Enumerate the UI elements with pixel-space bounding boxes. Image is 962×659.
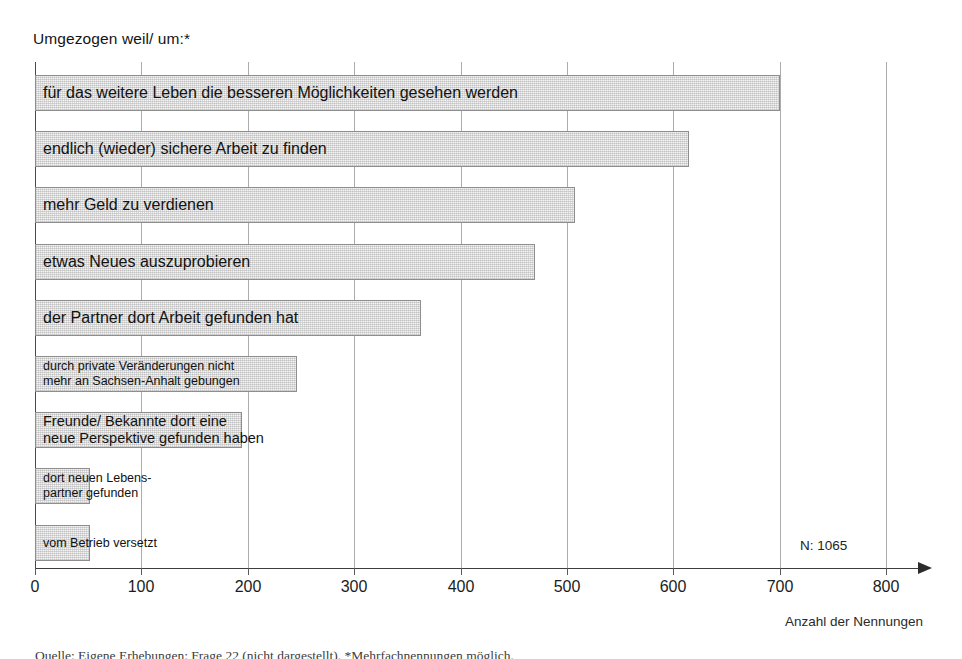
bar-chart: Umgezogen weil/ um:* für das weitere Leb…: [0, 0, 962, 659]
bar: [35, 468, 90, 504]
bar: [35, 244, 535, 280]
bar: [35, 525, 90, 561]
bar-row: Freunde/ Bekannte dort eine neue Perspek…: [35, 412, 886, 448]
x-tick-400: [461, 568, 462, 575]
gridline-800: [886, 62, 887, 568]
x-axis-line: [35, 568, 921, 569]
x-tick-700: [780, 568, 781, 575]
x-tick-label-500: 500: [554, 578, 581, 596]
bar-row: der Partner dort Arbeit gefunden hat: [35, 300, 886, 336]
bar-row: mehr Geld zu verdienen: [35, 187, 886, 223]
source-caption: Quelle: Eigene Erhebungen; Frage 22 (nic…: [35, 648, 514, 659]
bar-row: durch private Veränderungen nicht mehr a…: [35, 356, 886, 392]
bar-row: endlich (wieder) sichere Arbeit zu finde…: [35, 131, 886, 167]
bar-row: für das weitere Leben die besseren Mögli…: [35, 75, 886, 111]
x-tick-label-300: 300: [341, 578, 368, 596]
x-tick-300: [354, 568, 355, 575]
x-tick-label-100: 100: [128, 578, 155, 596]
bar-row: vom Betrieb versetzt: [35, 525, 886, 561]
plot-area: für das weitere Leben die besseren Mögli…: [35, 62, 886, 568]
x-tick-600: [673, 568, 674, 575]
bar-row: dort neuen Lebens- partner gefunden: [35, 468, 886, 504]
x-tick-label-600: 600: [660, 578, 687, 596]
x-tick-label-0: 0: [31, 578, 40, 596]
x-tick-label-200: 200: [235, 578, 262, 596]
x-tick-800: [886, 568, 887, 575]
x-tick-label-800: 800: [873, 578, 900, 596]
chart-title: Umgezogen weil/ um:*: [33, 30, 190, 48]
x-tick-label-700: 700: [767, 578, 794, 596]
x-tick-200: [248, 568, 249, 575]
bar: [35, 187, 575, 223]
x-tick-500: [567, 568, 568, 575]
x-tick-label-400: 400: [448, 578, 475, 596]
x-tick-0: [35, 568, 36, 575]
sample-size-note: N: 1065: [800, 538, 847, 553]
x-tick-100: [141, 568, 142, 575]
bar: [35, 131, 689, 167]
bar: [35, 356, 297, 392]
x-axis-arrow-icon: [918, 562, 932, 574]
bar: [35, 412, 242, 448]
bar-row: etwas Neues auszuprobieren: [35, 244, 886, 280]
x-axis-title: Anzahl der Nennungen: [785, 614, 923, 629]
bar: [35, 300, 421, 336]
bar: [35, 75, 780, 111]
